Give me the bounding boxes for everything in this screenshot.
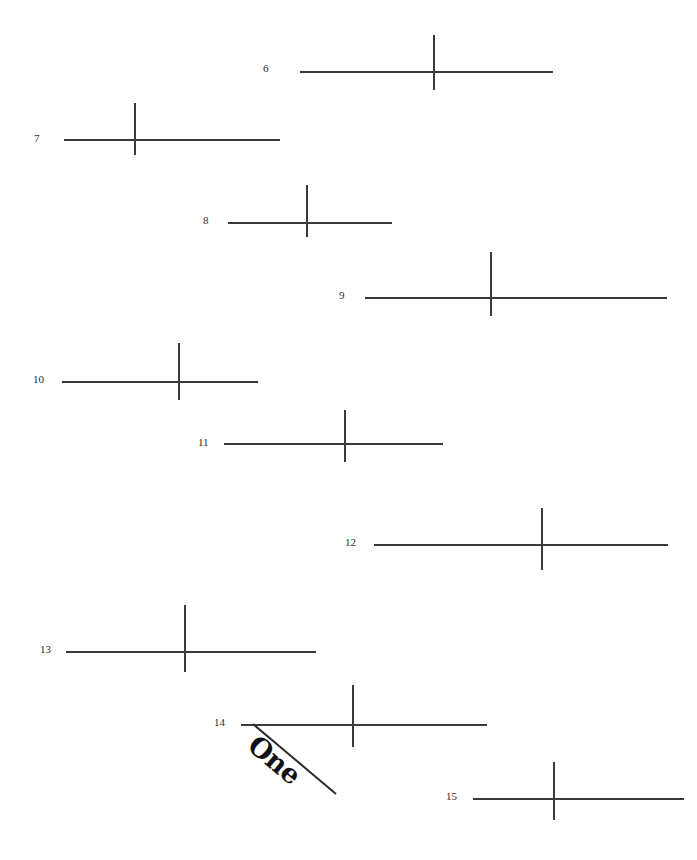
scanned-sheet: 6789101112131415 One [0,0,697,860]
diagonal-leader-line [0,0,697,860]
